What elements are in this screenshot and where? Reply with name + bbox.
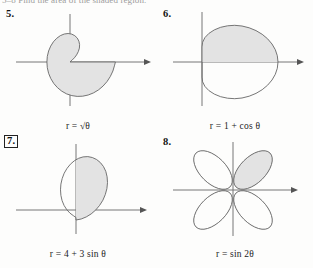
problem-6: 6. r = 1 + cos θ — [157, 6, 313, 134]
instruction-text: 5–8 Find the area of the shaded region. — [2, 0, 311, 5]
problem-5: 5. r = √θ — [0, 6, 156, 134]
exercise-page: 5–8 Find the area of the shaded region. … — [0, 0, 313, 268]
problem-7: 7. r = 4 + 3 sin θ — [0, 134, 156, 262]
polar-plot-7 — [14, 138, 152, 236]
equation-5: r = √θ — [0, 121, 156, 131]
equation-6: r = 1 + cos θ — [157, 121, 313, 131]
curve-spiral-5 — [47, 34, 116, 97]
petal-q2-8 — [187, 144, 239, 196]
equation-8: r = sin 2θ — [157, 249, 313, 259]
polar-plot-6 — [171, 10, 309, 108]
equation-7: r = 4 + 3 sin θ — [0, 249, 156, 259]
shaded-petal-8 — [227, 144, 279, 196]
polar-plot-5 — [14, 10, 152, 108]
polar-plot-8 — [171, 138, 309, 236]
petal-q3-8 — [187, 184, 239, 236]
problem-8: 8. r = sin 2θ — [157, 134, 313, 262]
axes-8 — [173, 142, 298, 236]
petal-q4-8 — [227, 184, 279, 236]
